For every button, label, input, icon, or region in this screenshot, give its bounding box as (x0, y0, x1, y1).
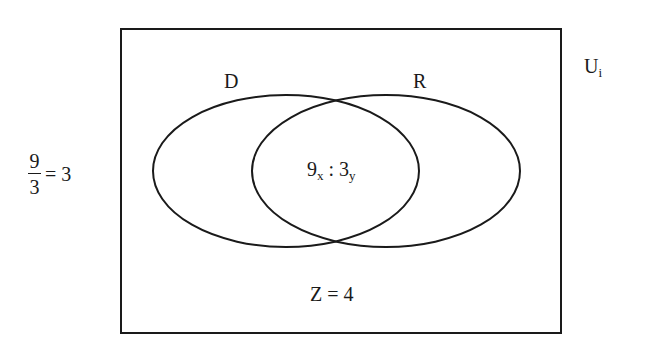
intersection-right-base: 3 (339, 158, 349, 180)
set-r-label: R (413, 71, 426, 91)
outside-label: Z = 4 (310, 284, 354, 304)
fraction-numerator: 9 (30, 151, 40, 173)
fraction: 9 3 (28, 151, 41, 197)
equation-result: = 3 (45, 163, 71, 186)
intersection-label: 9x : 3y (307, 159, 356, 182)
set-d-label: D (224, 71, 238, 91)
fraction-denominator: 3 (30, 174, 40, 197)
side-equation: 9 3 = 3 (28, 151, 71, 197)
set-d-ellipse (153, 95, 419, 247)
universe-label-base: U (584, 55, 598, 77)
intersection-separator: : (324, 158, 340, 180)
set-r-ellipse (252, 95, 520, 247)
universe-label-sub: i (598, 65, 602, 80)
intersection-left-base: 9 (307, 158, 317, 180)
intersection-right-sub: y (349, 168, 356, 183)
universe-label: Ui (584, 56, 602, 79)
